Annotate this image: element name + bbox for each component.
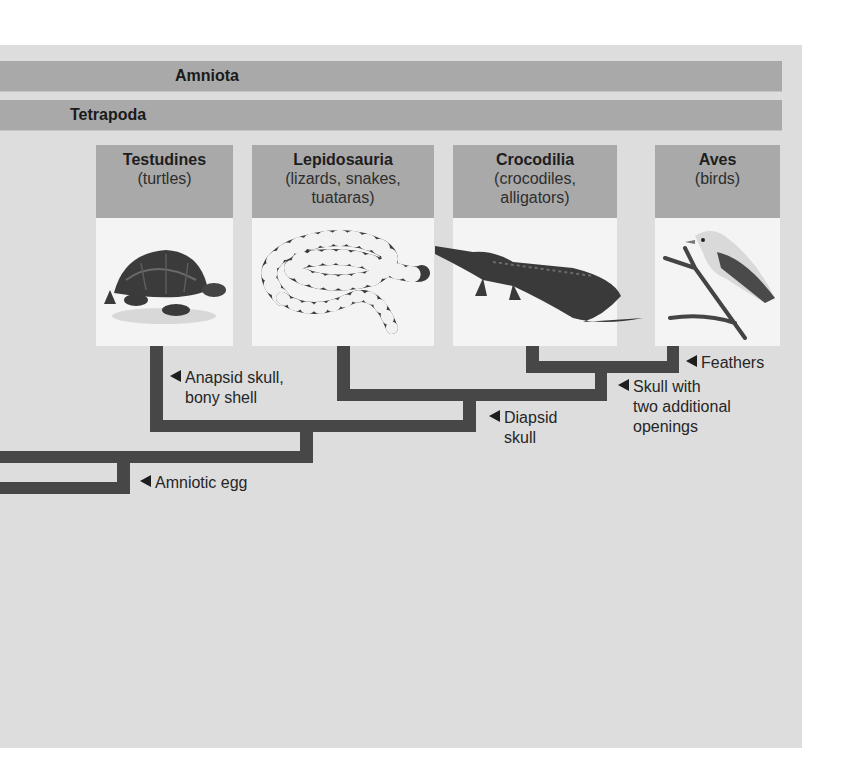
trait-anapsid-skull: Anapsid skull, bony shell xyxy=(170,368,284,408)
taxon-card-aves: Aves (birds) xyxy=(655,145,780,346)
taxon-common-name: (birds) xyxy=(655,169,780,188)
trait-diapsid-skull: Diapsid skull xyxy=(489,408,557,448)
triangle-pointer-icon xyxy=(618,379,629,391)
taxon-common-name: (turtles) xyxy=(96,169,233,188)
taxon-header: Crocodilia (crocodiles, alligators) xyxy=(453,145,617,218)
band-label: Tetrapoda xyxy=(70,106,146,124)
taxon-common-name: (crocodiles, alligators) xyxy=(453,169,617,207)
branch-amniota-upper xyxy=(0,451,313,463)
taxon-card-testudines: Testudines (turtles) xyxy=(96,145,233,346)
bird-icon xyxy=(655,218,780,346)
taxon-name: Aves xyxy=(655,150,780,169)
snake-icon xyxy=(252,218,434,346)
taxon-card-crocodilia: Crocodilia (crocodiles, alligators) xyxy=(453,145,617,346)
taxon-name: Crocodilia xyxy=(453,150,617,169)
triangle-pointer-icon xyxy=(686,355,697,367)
turtle-icon xyxy=(96,218,233,346)
trait-amniotic-egg: Amniotic egg xyxy=(140,473,248,493)
alligator-icon xyxy=(453,218,617,346)
trait-feathers: Feathers xyxy=(686,353,764,373)
taxon-card-lepidosauria: Lepidosauria (lizards, snakes, tuataras) xyxy=(252,145,434,346)
band-label: Amniota xyxy=(175,67,239,85)
triangle-pointer-icon xyxy=(140,475,151,487)
branch-reptilia-join xyxy=(150,420,476,432)
taxon-name: Lepidosauria xyxy=(252,150,434,169)
trait-skull-openings: Skull with two additional openings xyxy=(618,377,731,437)
triangle-pointer-icon xyxy=(170,370,181,382)
branch-tetrapoda-lower xyxy=(0,482,130,494)
taxon-common-name: (lizards, snakes, tuataras) xyxy=(252,169,434,207)
taxon-header: Aves (birds) xyxy=(655,145,780,218)
clade-band-amniota: Amniota xyxy=(0,61,782,91)
taxon-header: Lepidosauria (lizards, snakes, tuataras) xyxy=(252,145,434,218)
taxon-header: Testudines (turtles) xyxy=(96,145,233,218)
taxon-name: Testudines xyxy=(96,150,233,169)
triangle-pointer-icon xyxy=(489,410,500,422)
clade-band-tetrapoda: Tetrapoda xyxy=(0,100,782,130)
